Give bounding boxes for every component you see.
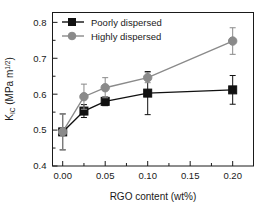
data-point-marker-square	[229, 86, 237, 94]
y-tick-label: 0.6	[33, 89, 46, 100]
legend-marker-circle-icon	[68, 32, 76, 40]
data-point-marker-circle	[80, 93, 88, 101]
x-tick-label: 0.00	[53, 170, 72, 181]
x-axis-title: RGO content (wt%)	[110, 191, 197, 202]
y-tick-label: 0.8	[33, 17, 46, 28]
legend-label-poorly-dispersed: Poorly dispersed	[91, 17, 162, 28]
y-tick-label: 0.5	[33, 124, 46, 135]
data-point-marker-circle	[143, 73, 151, 81]
fracture-toughness-line-chart: 0.40.50.60.70.8 0.000.050.100.150.20 RGO…	[0, 0, 265, 210]
chart-figure: 0.40.50.60.70.8 0.000.050.100.150.20 RGO…	[0, 0, 265, 210]
data-point-marker-circle	[101, 84, 109, 92]
x-tick-label: 0.10	[138, 170, 157, 181]
data-point-marker-circle	[228, 37, 236, 45]
y-tick-label: 0.7	[33, 53, 46, 64]
y-axis-title-unit-pre: (MPa m	[4, 70, 15, 108]
data-point-marker-square	[144, 89, 152, 97]
legend-label-highly-dispersed: Highly dispersed	[91, 31, 161, 42]
x-tick-label: 0.20	[223, 170, 242, 181]
data-point-marker-circle	[58, 128, 66, 136]
y-axis-title-unit-post: )	[4, 57, 15, 60]
y-tick-label: 0.4	[33, 160, 46, 171]
x-tick-label: 0.15	[181, 170, 200, 181]
legend-marker-square-icon	[69, 19, 76, 26]
data-point-marker-square	[101, 97, 109, 105]
y-axis-title-superscript: 1/2	[4, 60, 11, 69]
x-tick-label: 0.05	[96, 170, 115, 181]
